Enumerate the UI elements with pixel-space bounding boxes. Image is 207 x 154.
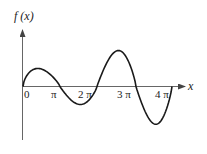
tick-label-4pi: 4 π (155, 88, 169, 100)
function-curve (23, 51, 172, 125)
function-graph: f (x) x 0 π 2 π 3 π 4 π (0, 0, 207, 154)
x-axis-label: x (187, 79, 194, 93)
y-axis-label: f (x) (14, 9, 34, 23)
tick-label-0: 0 (24, 88, 30, 100)
tick-label-2pi: 2 π (78, 88, 92, 100)
tick-label-pi: π (51, 88, 57, 100)
tick-label-3pi: 3 π (117, 88, 131, 100)
